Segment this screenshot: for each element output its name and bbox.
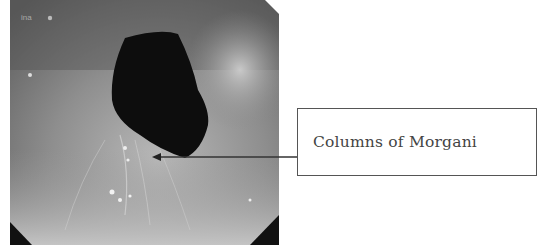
endoscopy-image xyxy=(10,0,279,245)
callout-box: Columns of Morgani xyxy=(297,108,537,176)
endoscopy-photo: ina xyxy=(10,0,279,245)
overlay-label: ina xyxy=(21,13,32,22)
callout-label: Columns of Morgani xyxy=(313,133,477,151)
